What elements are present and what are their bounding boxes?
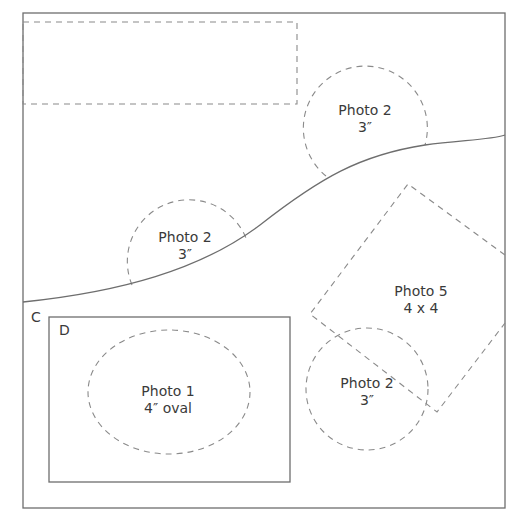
photo-title: Photo 5 bbox=[371, 283, 471, 300]
photo-label-left-circle: Photo 2 3″ bbox=[135, 229, 235, 263]
outer-frame bbox=[23, 13, 505, 508]
region-c-label: C bbox=[31, 309, 41, 325]
photo-size: 3″ bbox=[135, 246, 235, 263]
photo-title: Photo 2 bbox=[135, 229, 235, 246]
region-d-label: D bbox=[59, 322, 70, 338]
photo-size: 3″ bbox=[317, 392, 417, 409]
photo-size: 4″ oval bbox=[118, 400, 218, 417]
photo-label-oval: Photo 1 4″ oval bbox=[118, 383, 218, 417]
layout-diagram bbox=[0, 0, 520, 515]
photo-size: 3″ bbox=[315, 119, 415, 136]
dividing-curve bbox=[23, 135, 505, 302]
photo-label-top-circle: Photo 2 3″ bbox=[315, 102, 415, 136]
dashed-title-box bbox=[23, 22, 297, 104]
photo-label-diamond: Photo 5 4 x 4 bbox=[371, 283, 471, 317]
photo-title: Photo 2 bbox=[315, 102, 415, 119]
photo-title: Photo 2 bbox=[317, 375, 417, 392]
photo-title: Photo 1 bbox=[118, 383, 218, 400]
photo-label-bottom-circle: Photo 2 3″ bbox=[317, 375, 417, 409]
photo-size: 4 x 4 bbox=[371, 300, 471, 317]
